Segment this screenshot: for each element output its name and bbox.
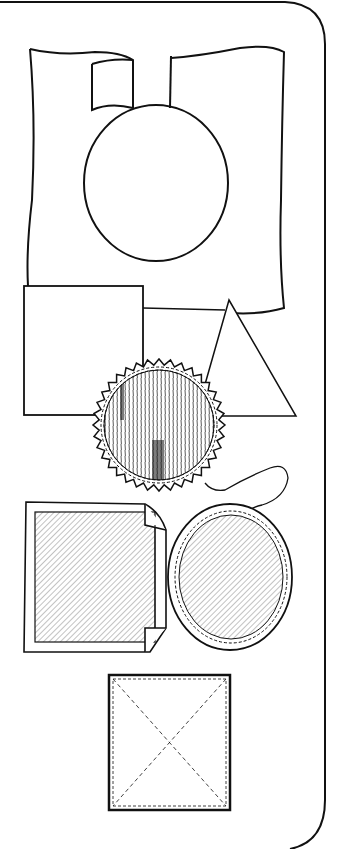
dashed-square-with-x: [109, 675, 230, 810]
round-seal-with-string: [168, 466, 292, 650]
line-art-figure: [0, 0, 337, 849]
wavy-sheet-with-slot: [28, 47, 285, 314]
circle-cutout: [84, 105, 228, 261]
folded-corner-square: [24, 502, 166, 652]
